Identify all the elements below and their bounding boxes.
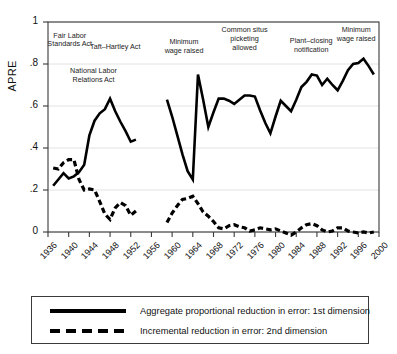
legend-item-aggregate: Aggregate proportional reduction in erro… (32, 301, 368, 321)
series-line-aggregate (53, 99, 136, 186)
legend-item-incremental: Incremental reduction in error: 2nd dime… (32, 321, 368, 341)
legend: Aggregate proportional reduction in erro… (31, 296, 369, 344)
figure-container: APRE 0.2.4.6.81 193619401944194819521956… (0, 0, 397, 354)
legend-label-incremental: Incremental reduction in error: 2nd dime… (140, 326, 327, 336)
data-series (53, 59, 374, 235)
legend-swatch-dashed-line (50, 329, 126, 333)
series-line-aggregate (167, 59, 374, 180)
legend-swatch-solid-line (50, 309, 126, 313)
series-line-incremental (53, 160, 136, 220)
chart-page: APRE 0.2.4.6.81 193619401944194819521956… (0, 0, 397, 354)
axis-ticks (43, 22, 379, 237)
legend-label-aggregate: Aggregate proportional reduction in erro… (140, 306, 370, 316)
series-line-incremental (167, 196, 374, 235)
